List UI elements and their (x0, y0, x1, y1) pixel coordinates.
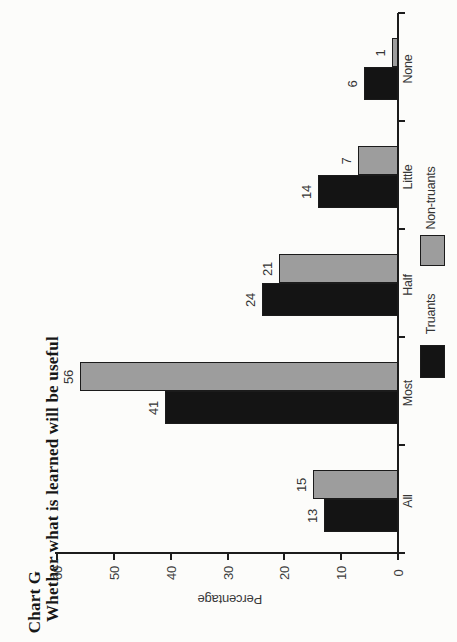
legend-label-truants: Truants (424, 294, 438, 335)
bar-non-truants-little (358, 146, 398, 175)
value-label-non-truants-none: 1 (373, 49, 388, 56)
value-tick-label-60: 60 (50, 566, 65, 580)
legend-label-non-truants: Non-truants (424, 166, 438, 229)
category-tick (398, 552, 405, 554)
bar-non-truants-half (279, 254, 398, 283)
bar-truants-none (364, 67, 398, 100)
category-label-little: Little (401, 164, 415, 189)
value-label-non-truants-half: 21 (260, 261, 275, 275)
value-tick-label-40: 40 (164, 566, 179, 580)
bar-truants-half (262, 283, 398, 316)
value-label-non-truants-little: 7 (339, 157, 354, 164)
category-label-half: Half (401, 274, 415, 295)
value-label-truants-half: 24 (243, 292, 258, 306)
chart-label: Chart G (25, 571, 45, 633)
category-tick (398, 120, 405, 122)
value-tick (227, 553, 229, 560)
bar-truants-most (165, 391, 398, 424)
value-label-truants-most: 41 (146, 400, 161, 414)
category-tick (398, 12, 405, 14)
legend-swatch-truants (420, 345, 445, 378)
value-label-non-truants-most: 56 (61, 369, 76, 383)
value-label-truants-little: 14 (299, 184, 314, 198)
value-tick-label-30: 30 (221, 566, 236, 580)
value-label-truants-all: 13 (305, 508, 320, 522)
value-label-truants-none: 6 (345, 80, 360, 87)
bar-truants-all (324, 499, 398, 532)
category-tick (398, 336, 405, 338)
value-tick-label-50: 50 (107, 566, 122, 580)
value-label-non-truants-all: 15 (294, 477, 309, 491)
category-tick (398, 228, 405, 230)
bar-non-truants-all (313, 470, 398, 499)
value-tick-label-0: 0 (391, 569, 406, 576)
category-label-most: Most (401, 380, 415, 406)
value-tick (113, 553, 115, 560)
category-label-none: None (401, 54, 415, 83)
scanned-chart-page: Chart G Whether what is learned will be … (0, 0, 457, 642)
value-tick (170, 553, 172, 560)
category-tick (398, 444, 405, 446)
bar-truants-little (318, 175, 398, 208)
percentage-axis-label: Percentage (198, 592, 263, 607)
value-tick (340, 553, 342, 560)
value-tick (397, 553, 399, 560)
legend-swatch-non-truants (420, 235, 445, 266)
value-tick-label-10: 10 (334, 566, 349, 580)
value-tick (283, 553, 285, 560)
bar-non-truants-most (80, 362, 398, 391)
category-label-all: All (401, 494, 415, 507)
bar-non-truants-none (392, 38, 398, 67)
value-tick (56, 553, 58, 560)
value-tick-label-20: 20 (277, 566, 292, 580)
